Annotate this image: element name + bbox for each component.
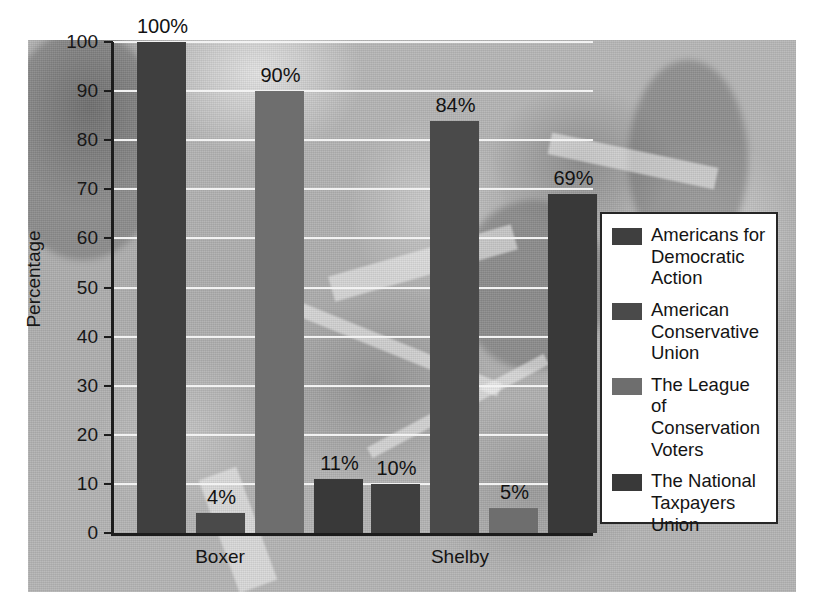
legend-item-label: The League of Conservation Voters [651,374,768,461]
legend-item[interactable]: The League of Conservation Voters [612,374,768,461]
y-axis-tick [104,385,113,387]
y-axis-tick-label: 10 [40,474,98,493]
legend-item-label: American Conservative Union [651,299,768,364]
y-axis-tick-label: 60 [40,228,98,247]
legend-swatch-icon [612,228,642,245]
bar-value-label: 90% [249,65,312,85]
legend-swatch-icon [612,303,642,320]
y-axis-tick-label: 0 [40,523,98,542]
y-axis-tick-label: 70 [40,179,98,198]
bar-value-label: 100% [131,16,194,36]
bar [137,42,186,533]
y-axis-tick-label: 90 [40,81,98,100]
y-axis-tick [104,188,113,190]
y-axis-tick [104,139,113,141]
y-axis-tick-label: 20 [40,425,98,444]
y-axis-tick-label: 40 [40,327,98,346]
y-axis-tick [104,237,113,239]
bar [255,91,304,533]
y-axis-tick [104,532,113,534]
bar-value-label: 11% [308,453,371,473]
category-label-boxer: Boxer [140,546,300,568]
bar-value-label: 10% [365,458,428,478]
y-axis-tick [104,434,113,436]
y-axis-tick-label: 50 [40,278,98,297]
bar-value-label: 4% [190,487,253,507]
bar [430,121,479,533]
legend-swatch-icon [612,474,642,491]
y-axis-title: Percentage [23,199,45,359]
category-label-shelby: Shelby [380,546,540,568]
bar [489,508,538,533]
bar [314,479,363,533]
bar [196,513,245,533]
y-axis-tick [104,41,113,43]
y-axis-tick [104,90,113,92]
y-axis-tick-label: 100 [40,32,98,51]
bar-value-label: 5% [483,482,546,502]
x-axis-line [111,533,593,536]
chart-figure: 100%4%90%11%10%84%5%69% 1009080706050403… [0,0,825,614]
y-axis-tick-label: 80 [40,130,98,149]
legend-item-label: Americans for Democratic Action [651,224,768,289]
legend-item-label: The National Taxpayers Union [651,470,768,535]
chart-legend: Americans for Democratic ActionAmerican … [600,212,778,524]
y-axis-tick [104,287,113,289]
legend-item-list: Americans for Democratic ActionAmerican … [612,224,768,535]
bar [548,194,597,533]
legend-swatch-icon [612,378,642,395]
bar-value-label: 69% [542,168,605,188]
y-axis-tick [104,483,113,485]
y-axis-tick [104,336,113,338]
legend-item[interactable]: The National Taxpayers Union [612,470,768,535]
y-axis-tick-label: 30 [40,376,98,395]
legend-item[interactable]: Americans for Democratic Action [612,224,768,289]
bar [371,484,420,533]
legend-item[interactable]: American Conservative Union [612,299,768,364]
bar-value-label: 84% [424,95,487,115]
y-axis-line [111,42,114,535]
